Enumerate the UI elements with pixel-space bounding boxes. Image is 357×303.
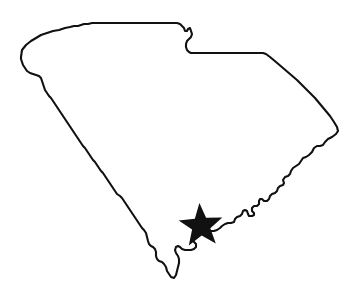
state-outline-map-figure — [0, 0, 357, 303]
map-canvas — [0, 0, 357, 303]
